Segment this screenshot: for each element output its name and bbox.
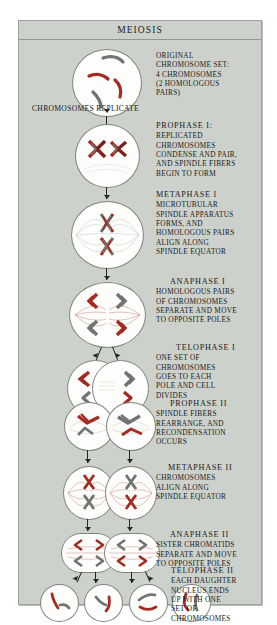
arrowhead-metaphase2-to-anaphase2-right (127, 527, 133, 531)
bivalent-lower (101, 238, 113, 255)
cell-anaphase-2-right (104, 533, 160, 573)
spindle-fibers (75, 306, 140, 326)
arrowhead-anaphase1-to-telophase1-right (113, 353, 120, 359)
text-anaphase-2-body: SISTER CHROMATIDS SEPARATE AND MOVE TO O… (156, 540, 237, 568)
text-anaphase-1-body: HOMOLOGOUS PAIRS OF CHROMOSOMES SEPARATE… (156, 287, 237, 324)
heading-metaphase-1: METAPHASE I (156, 190, 235, 200)
chromosomes-metaphase-2-right (106, 467, 156, 519)
cell-daughter-1 (40, 584, 79, 622)
text-telophase-2: TELOPHASE II EACH DAUGHTER NUCLEUS ENDS … (171, 566, 237, 623)
text-prophase-2-body: SPINDLE FIBERS REARRANGE, AND RECONDENSA… (156, 409, 227, 446)
chromosomes-daughter-2 (85, 585, 122, 621)
chromosomes-prophase-1 (76, 125, 139, 187)
bivalent-right (111, 142, 126, 156)
text-telophase-2-body: EACH DAUGHTER NUCLEUS ENDS UP WITH ONE S… (171, 576, 237, 622)
heading-telophase-1: TELOPHASE I (156, 343, 235, 353)
text-telophase-1: TELOPHASE I ONE SET OF CHROMOSOMES GOES … (156, 343, 235, 400)
chromosomes-anaphase-1 (70, 283, 145, 347)
cell-metaphase-2-right (105, 466, 157, 520)
text-telophase-1-body: ONE SET OF CHROMOSOMES GOES TO EACH POLE… (156, 353, 235, 399)
arrowhead-daughter-4 (146, 576, 153, 582)
cell-anaphase-1 (69, 282, 146, 348)
heading-metaphase-2: METAPHASE II (156, 463, 232, 473)
cell-daughter-3 (129, 584, 168, 622)
text-metaphase-2-body: CHROMOSOMES ALIGN ALONG SPINDLE EQUATOR (156, 473, 232, 501)
meiosis-diagram-panel: MEIOSIS ORIGINAL CHROMOSOME SET: 4 CHROM… (18, 20, 262, 605)
arrowhead-prophase2-to-metaphase2-left (85, 459, 91, 463)
text-metaphase-2: METAPHASE II CHROMOSOMES ALIGN ALONG SPI… (156, 463, 232, 501)
cell-metaphase-1 (71, 201, 144, 269)
arrowhead-metaphase2-to-anaphase2-left (85, 527, 91, 531)
arrowhead-metaphase1-to-anaphase1 (104, 276, 110, 280)
heading-telophase-2: TELOPHASE II (171, 566, 237, 576)
heading-prophase-1: PROPHASE I: (156, 121, 237, 131)
cell-prophase-1 (75, 124, 140, 188)
heading-anaphase-2: ANAPHASE II (156, 530, 237, 540)
text-prophase-2: PROPHASE II SPINDLE FIBERS REARRANGE, AN… (156, 399, 227, 447)
page-title: MEIOSIS (117, 25, 163, 35)
text-metaphase-1: METAPHASE I MICROTUBULAR SPINDLE APPARAT… (156, 190, 235, 256)
text-anaphase-1: ANAPHASE I HOMOLOGOUS PAIRS OF CHROMOSOM… (156, 277, 237, 325)
arrowhead-original-to-prophase1 (104, 109, 110, 113)
text-original: ORIGINAL CHROMOSOME SET: 4 CHROMOSOMES (… (156, 51, 229, 97)
cell-daughter-2 (84, 584, 123, 622)
chromosomes-metaphase-1 (72, 202, 143, 268)
chromosomes-anaphase-2-right (105, 534, 159, 572)
heading-prophase-2: PROPHASE II (156, 399, 227, 409)
text-anaphase-2: ANAPHASE II SISTER CHROMATIDS SEPARATE A… (156, 530, 237, 568)
text-original-body: ORIGINAL CHROMOSOME SET: 4 CHROMOSOMES (… (156, 51, 229, 97)
text-metaphase-1-body: MICROTUBULAR SPINDLE APPARATUS FORMS, AN… (156, 200, 235, 256)
text-prophase-1-body: REPLICATED CHROMOSOMES CONDENSE AND PAIR… (156, 131, 237, 177)
arrowhead-anaphase1-to-telophase1-left (92, 353, 99, 359)
bivalent-left (89, 141, 105, 157)
heading-anaphase-1: ANAPHASE I (156, 277, 237, 287)
cell-prophase-2-right (106, 402, 156, 451)
arrowhead-prophase2-to-metaphase2-right (127, 459, 133, 463)
label-chromosomes-replicate: CHROMOSOMES REPLICATE (32, 104, 139, 113)
arrowhead-daughter-3 (129, 579, 135, 583)
chromosomes-daughter-3 (130, 585, 167, 621)
arrowhead-daughter-2 (93, 579, 99, 583)
chromosomes-daughter-1 (41, 585, 78, 621)
arrowhead-prophase1-to-metaphase1 (104, 195, 110, 199)
diagram-title-bar: MEIOSIS (19, 21, 261, 40)
arrowhead-daughter-1 (72, 576, 79, 582)
text-prophase-1: PROPHASE I: REPLICATED CHROMOSOMES CONDE… (156, 121, 237, 178)
chromosomes-prophase-2-right (107, 403, 155, 450)
